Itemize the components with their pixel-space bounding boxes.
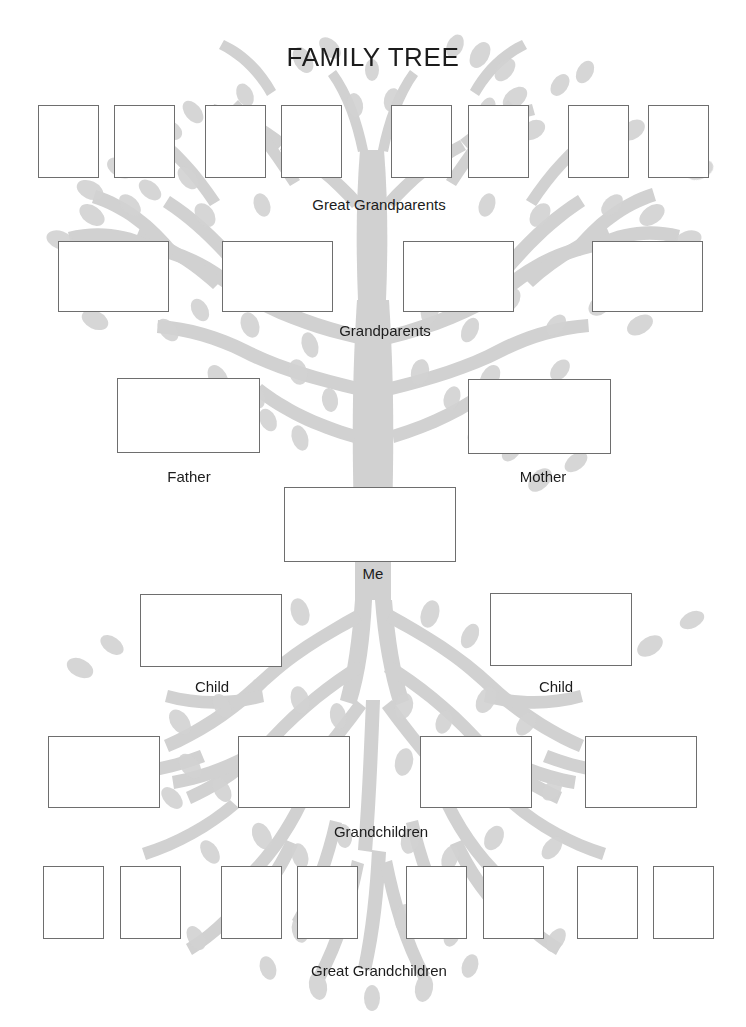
photo-box-parents-1[interactable] xyxy=(117,378,260,453)
photo-box-self-1[interactable] xyxy=(284,487,456,562)
photo-box-children-2[interactable] xyxy=(490,593,632,666)
photo-box-grandparents-3[interactable] xyxy=(403,241,514,312)
label-children-1: Child xyxy=(195,678,229,695)
tier-label-great-grandparents: Great Grandparents xyxy=(312,196,445,213)
photo-box-grandparents-1[interactable] xyxy=(58,241,169,312)
photo-box-grandchildren-2[interactable] xyxy=(238,736,350,808)
photo-box-great-grandchildren-4[interactable] xyxy=(297,866,358,939)
label-parents-2: Mother xyxy=(520,468,567,485)
photo-box-great-grandparents-5[interactable] xyxy=(391,105,452,178)
photo-box-grandchildren-1[interactable] xyxy=(48,736,160,808)
photo-box-great-grandparents-3[interactable] xyxy=(205,105,266,178)
tier-label-grandchildren: Grandchildren xyxy=(334,823,428,840)
photo-box-grandchildren-3[interactable] xyxy=(420,736,532,808)
photo-box-great-grandchildren-8[interactable] xyxy=(653,866,714,939)
photo-box-grandparents-2[interactable] xyxy=(222,241,333,312)
page-title: FAMILY TREE xyxy=(0,42,746,73)
label-parents-1: Father xyxy=(167,468,210,485)
photo-box-great-grandchildren-5[interactable] xyxy=(406,866,467,939)
photo-box-great-grandparents-6[interactable] xyxy=(468,105,529,178)
photo-box-great-grandchildren-3[interactable] xyxy=(221,866,282,939)
photo-box-parents-2[interactable] xyxy=(468,379,611,454)
tier-label-great-grandchildren: Great Grandchildren xyxy=(311,962,447,979)
photo-box-grandparents-4[interactable] xyxy=(592,241,703,312)
photo-box-great-grandchildren-1[interactable] xyxy=(43,866,104,939)
photo-box-grandchildren-4[interactable] xyxy=(585,736,697,808)
photo-box-great-grandchildren-2[interactable] xyxy=(120,866,181,939)
photo-box-great-grandparents-7[interactable] xyxy=(568,105,629,178)
tier-label-self: Me xyxy=(363,565,384,582)
photo-box-great-grandchildren-6[interactable] xyxy=(483,866,544,939)
photo-box-great-grandparents-8[interactable] xyxy=(648,105,709,178)
photo-box-great-grandparents-4[interactable] xyxy=(281,105,342,178)
photo-box-great-grandchildren-7[interactable] xyxy=(577,866,638,939)
photo-box-great-grandparents-1[interactable] xyxy=(38,105,99,178)
family-tree-page: FAMILY TREE Great GrandparentsGrandparen… xyxy=(0,0,746,1027)
tier-label-grandparents: Grandparents xyxy=(339,322,431,339)
photo-box-children-1[interactable] xyxy=(140,594,282,667)
label-children-2: Child xyxy=(539,678,573,695)
photo-box-great-grandparents-2[interactable] xyxy=(114,105,175,178)
